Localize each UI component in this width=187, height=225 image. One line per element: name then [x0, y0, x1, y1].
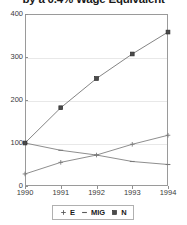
- legend-label: MIG: [91, 209, 105, 217]
- y-axis-tick-label: 300: [1, 53, 23, 61]
- plus-key-icon: [59, 209, 68, 216]
- y-axis-tick-label: 100: [1, 139, 23, 147]
- x-axis-tick-mark: [168, 186, 169, 189]
- legend-label: E: [70, 209, 75, 217]
- x-axis-tick-mark: [61, 186, 62, 189]
- series-n: [23, 30, 170, 145]
- square-marker: [23, 141, 27, 145]
- line-chart: by a 0.4% Wage Equivalent 4003002001000 …: [0, 0, 187, 225]
- plus-marker: [58, 160, 63, 165]
- legend-entry-mig[interactable]: MIG: [80, 209, 105, 217]
- legend-entry-e[interactable]: E: [59, 209, 75, 217]
- legend-entry-n[interactable]: N: [110, 209, 126, 217]
- x-axis-tick-label: 1993: [115, 189, 149, 197]
- dash-key-icon: [80, 209, 89, 216]
- x-axis-tick-mark: [132, 186, 133, 189]
- plus-marker: [166, 133, 171, 138]
- x-axis-tick-label: 1992: [80, 189, 114, 197]
- plus-marker: [23, 172, 28, 177]
- y-axis-tick-label: 200: [1, 96, 23, 104]
- y-axis-tick-label: 400: [1, 10, 23, 18]
- plus-marker: [130, 142, 135, 147]
- x-axis-tick-label: 1990: [8, 189, 42, 197]
- square-marker: [113, 211, 117, 215]
- x-axis-tick-mark: [97, 186, 98, 189]
- plus-marker: [61, 210, 66, 215]
- x-axis-tick-mark: [25, 186, 26, 189]
- square-marker: [95, 77, 99, 81]
- x-axis-tick-label: 1991: [44, 189, 78, 197]
- square-key-icon: [110, 209, 119, 216]
- square-marker: [130, 52, 134, 56]
- x-axis-tick-label: 1994: [151, 189, 185, 197]
- series-layer: [25, 14, 168, 186]
- square-marker: [59, 106, 63, 110]
- chart-title: by a 0.4% Wage Equivalent: [0, 0, 187, 6]
- chart-legend: EMIGN: [52, 205, 134, 220]
- legend-label: N: [121, 209, 126, 217]
- square-marker: [166, 30, 170, 34]
- series-line: [25, 32, 168, 143]
